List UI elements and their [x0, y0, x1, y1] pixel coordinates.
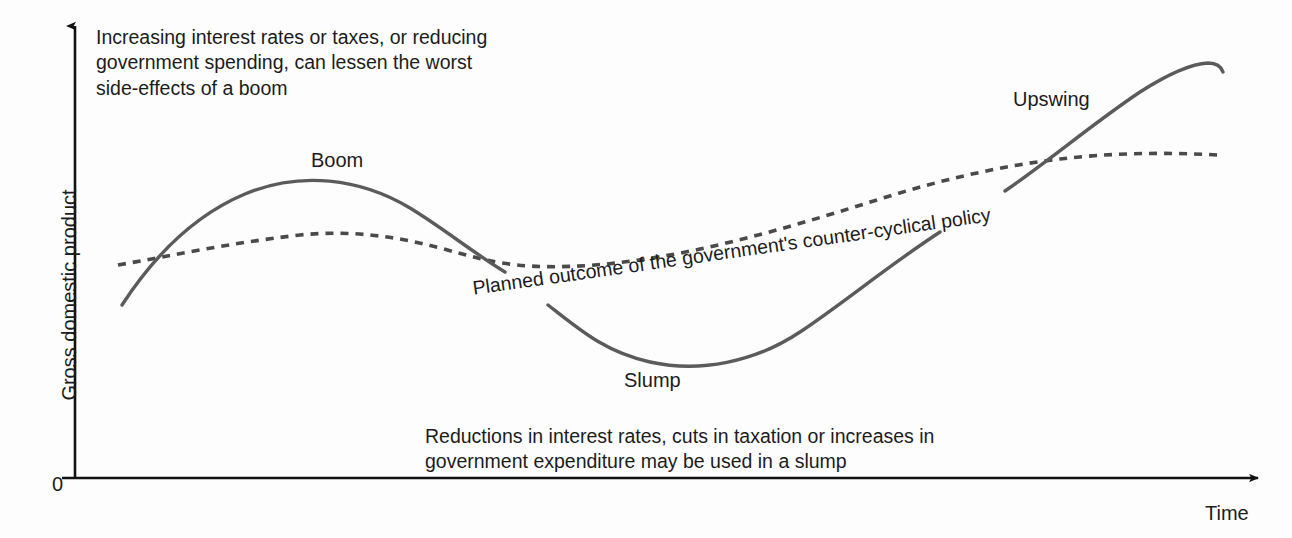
- note-boom-policy: Increasing interest rates or taxes, or r…: [96, 25, 487, 101]
- business-cycle-diagram: Increasing interest rates or taxes, or r…: [0, 0, 1292, 538]
- curve-label-boom: Boom: [311, 147, 363, 173]
- y-axis-label: Gross domestic product: [56, 165, 82, 425]
- actual-cycle-boom-segment: [122, 180, 505, 305]
- x-axis-label: Time: [1205, 500, 1249, 526]
- curve-label-upswing: Upswing: [1013, 86, 1090, 112]
- curve-label-slump: Slump: [624, 367, 681, 393]
- actual-cycle-upswing-segment: [1005, 63, 1223, 191]
- axis-origin-label: 0: [52, 471, 63, 497]
- note-slump-policy: Reductions in interest rates, cuts in ta…: [425, 424, 934, 475]
